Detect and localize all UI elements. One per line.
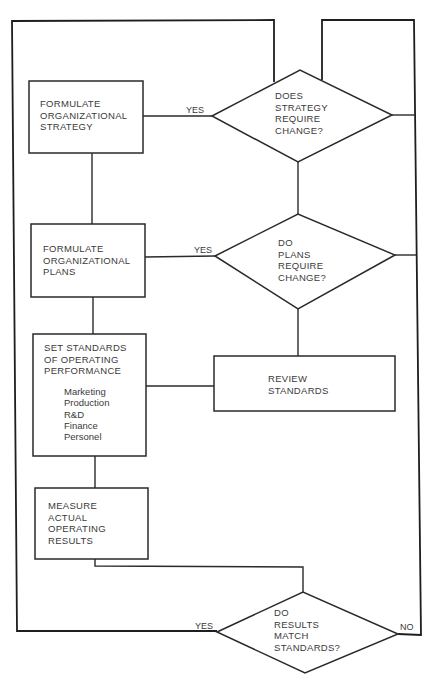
yes-label-strategy: YES xyxy=(186,105,204,115)
plans-box-label: FORMULATE ORGANIZATIONAL PLANS xyxy=(43,243,130,278)
no-label-results: NO xyxy=(400,622,414,632)
standards-areas-list: Marketing Production R&D Finance Persone… xyxy=(64,386,109,442)
standards-box-label: SET STANDARDS OF OPERATING PERFORMANCE xyxy=(44,342,127,377)
strategy-box-label: FORMULATE ORGANIZATIONAL STRATEGY xyxy=(40,98,127,133)
results-decision-label: DO RESULTS MATCH STANDARDS? xyxy=(274,607,340,653)
review-box-label: REVIEW STANDARDS xyxy=(268,373,329,396)
strategy-decision-label: DOES STRATEGY REQUIRE CHANGE? xyxy=(275,90,328,136)
yes-label-plans: YES xyxy=(194,245,212,255)
connector xyxy=(145,256,215,257)
yes-label-results: YES xyxy=(195,621,213,631)
connector xyxy=(95,559,303,592)
plans-decision-label: DO PLANS REQUIRE CHANGE? xyxy=(278,237,326,283)
measure-box-label: MEASURE ACTUAL OPERATING RESULTS xyxy=(48,500,106,546)
